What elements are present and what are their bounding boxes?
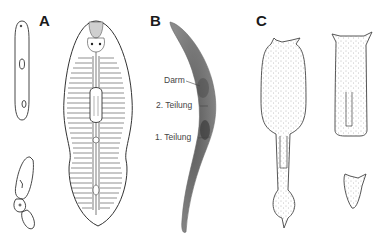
panel-a-small-worm-top <box>15 21 29 120</box>
panel-c-fragment-small <box>344 174 366 208</box>
panel-b-worm-photo <box>170 22 216 233</box>
panel-label-b: B <box>150 12 161 29</box>
annotation-2-teilung: 2. Teilung <box>156 100 192 110</box>
panel-label-a: A <box>39 12 50 29</box>
panel-a-planarian <box>64 21 133 226</box>
panel-a-small-worm-dividing <box>14 157 35 229</box>
panel-c-fragment-middle <box>332 32 372 136</box>
panel-label-c: C <box>256 12 267 29</box>
annotation-1-teilung: 1. Teilung <box>155 132 191 142</box>
figure-illustration <box>0 0 385 239</box>
annotation-darm: Darm <box>164 75 185 85</box>
panel-c-fragment-large <box>261 38 306 228</box>
